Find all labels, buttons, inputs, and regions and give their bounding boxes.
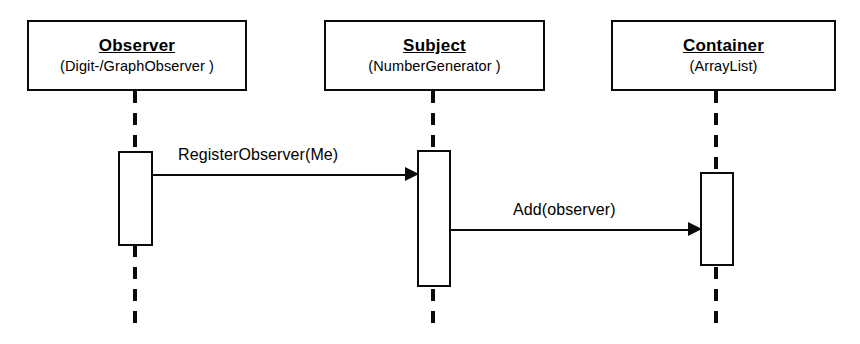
participant-box-subject[interactable]: Subject (NumberGenerator ) (324, 20, 545, 91)
participant-name-observer: Observer (99, 36, 175, 56)
participant-box-container[interactable]: Container (ArrayList) (611, 20, 836, 91)
message-line-add-observer[interactable] (450, 229, 688, 231)
participant-box-observer[interactable]: Observer (Digit-/GraphObserver ) (27, 20, 247, 91)
message-arrowhead-add-observer (688, 222, 702, 236)
message-line-register-observer[interactable] (153, 174, 405, 176)
participant-name-subject: Subject (403, 36, 466, 56)
participant-name-container: Container (683, 36, 764, 56)
activation-bar-subject[interactable] (417, 150, 451, 287)
activation-bar-container[interactable] (700, 172, 734, 266)
participant-type-subject: (NumberGenerator ) (368, 58, 500, 75)
message-label-register-observer: RegisterObserver(Me) (178, 146, 338, 164)
message-arrowhead-register-observer (405, 167, 419, 181)
participant-type-container: (ArrayList) (690, 58, 758, 75)
activation-bar-observer[interactable] (118, 151, 153, 246)
sequence-diagram-canvas: Observer (Digit-/GraphObserver ) Subject… (0, 0, 860, 344)
participant-type-observer: (Digit-/GraphObserver ) (60, 58, 214, 75)
message-label-add-observer: Add(observer) (513, 201, 616, 219)
